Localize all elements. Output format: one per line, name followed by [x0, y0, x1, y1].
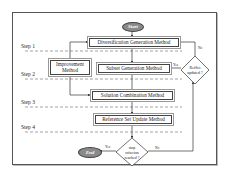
step-1-label: Step 1 — [21, 43, 35, 49]
refset-update-box: Reference Set Update Method — [95, 115, 172, 124]
step-4-label: Step 4 — [21, 124, 35, 130]
step-2-label: Step 2 — [21, 71, 35, 77]
refset-update-label: Reference Set Update Method — [102, 116, 165, 122]
subset-generation-label: Subset Generation Method — [106, 65, 162, 71]
stop-decision-line3: reached ? — [120, 155, 144, 160]
solution-combination-box: Solution Combination Method — [92, 91, 173, 100]
end-label: End — [86, 150, 95, 155]
improvement-method-box: Improvement Method — [50, 60, 90, 75]
solution-combination-label: Solution Combination Method — [101, 92, 164, 98]
step-3-label: Step 3 — [21, 99, 35, 105]
diversification-generation-label: Diversification Generation Method — [98, 39, 171, 45]
refset-decision-text: RefSet updated ? — [183, 65, 207, 75]
diversification-generation-box: Diversification Generation Method — [89, 38, 179, 47]
start-label: Start — [128, 24, 138, 29]
stop-yes-label: Yes — [105, 145, 110, 149]
stop-no-label: No — [155, 146, 159, 150]
end-terminal: End — [78, 147, 102, 158]
refset-decision-line2: updated ? — [183, 70, 207, 75]
subset-generation-box: Subset Generation Method — [98, 64, 170, 73]
refset-yes-label: Yes — [173, 63, 178, 67]
start-terminal: Start — [122, 22, 144, 32]
stop-decision-text: stop criterion reached ? — [120, 145, 144, 160]
refset-no-label: No — [198, 46, 202, 50]
improvement-label-line2: Method — [51, 67, 89, 73]
